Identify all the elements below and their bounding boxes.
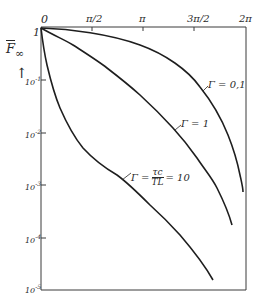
y-axis-label: F∞ xyxy=(6,42,24,59)
tick-base: 10 xyxy=(25,286,35,295)
tick-base: 10 xyxy=(25,183,35,192)
y-axis-symbol: F xyxy=(6,41,15,56)
x-tick-label-pi-half: π/2 xyxy=(86,14,102,24)
annotation-gamma-10-prefix: Γ = xyxy=(131,173,150,183)
tick-base: 10 xyxy=(25,131,35,140)
tick-exponent: -5 xyxy=(35,283,41,290)
y-tick-label-1e-4: 10-4 xyxy=(25,234,41,245)
x-tick-label-2pi: 2π xyxy=(239,14,252,24)
tick-exponent: -3 xyxy=(35,180,41,187)
tick-exponent: -4 xyxy=(35,233,41,240)
annotation-gamma-0-1: Γ = 0,1 xyxy=(208,80,246,90)
y-axis-ticks xyxy=(41,80,46,238)
plot-frame xyxy=(41,27,246,290)
annotation-leaders xyxy=(122,86,208,180)
y-tick-label-1: 1 xyxy=(33,27,40,38)
fraction-tau-over-tl: τc TL xyxy=(152,168,164,188)
annotation-gamma-1: Γ = 1 xyxy=(181,119,209,129)
x-axis-ticks xyxy=(92,27,194,31)
annotation-gamma-10-suffix: = 10 xyxy=(166,173,190,183)
y-axis-subscript: ∞ xyxy=(15,47,24,60)
annotation-gamma-10: Γ = τc TL = 10 xyxy=(131,168,190,188)
tick-base: 10 xyxy=(25,78,35,87)
x-tick-label-pi: π xyxy=(139,14,146,24)
y-tick-label-1e-5: 10-5 xyxy=(25,284,41,295)
tick-exponent: -2 xyxy=(35,128,41,135)
y-tick-label-1e-1: 10-1 xyxy=(25,76,41,87)
curve-gamma-10 xyxy=(41,28,213,280)
tick-base: 10 xyxy=(25,236,35,245)
fraction-denominator: TL xyxy=(152,178,164,187)
y-tick-label-1e-3: 10-3 xyxy=(25,181,41,192)
chart-plot xyxy=(0,0,259,300)
x-tick-label-3pi-half: 3π/2 xyxy=(187,14,210,24)
tick-exponent: -1 xyxy=(35,75,41,82)
x-tick-label-0: 0 xyxy=(41,14,48,25)
y-tick-label-1e-2: 10-2 xyxy=(25,129,41,140)
